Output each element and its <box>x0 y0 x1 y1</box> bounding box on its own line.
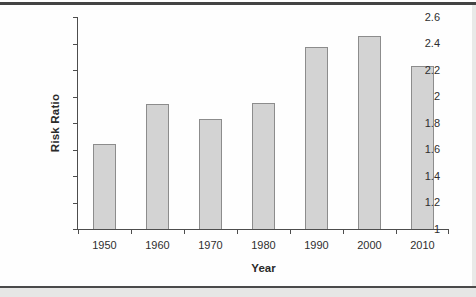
y-axis-tick <box>73 150 77 151</box>
x-tick-label-1980: 1980 <box>237 239 290 251</box>
y-tick-label-1.2: 1.2 <box>400 197 440 208</box>
x-tick-label-1990: 1990 <box>290 239 343 251</box>
y-tick-label-1: 1 <box>400 224 440 235</box>
top-rule <box>0 2 476 5</box>
x-tick-label-1970: 1970 <box>184 239 237 251</box>
y-tick-label-1.4: 1.4 <box>400 171 440 182</box>
x-axis-title: Year <box>78 262 449 274</box>
x-axis-tick <box>78 230 79 234</box>
x-tick-label-2000: 2000 <box>343 239 396 251</box>
x-tick-label-1960: 1960 <box>131 239 184 251</box>
y-axis-tick <box>73 70 77 71</box>
y-axis-tick <box>73 176 77 177</box>
bar-1950 <box>93 144 116 229</box>
y-tick-label-1.6: 1.6 <box>400 144 440 155</box>
y-tick-label-2.6: 2.6 <box>400 12 440 23</box>
bar-1970 <box>199 119 222 229</box>
x-tick-label-1950: 1950 <box>78 239 131 251</box>
bar-1990 <box>305 47 328 229</box>
y-axis-tick <box>73 97 77 98</box>
x-axis-tick <box>396 230 397 234</box>
y-axis-tick <box>73 203 77 204</box>
scanned-figure-page: Risk Ratio Year 2.62.42.221.81.61.41.21 … <box>0 0 476 289</box>
y-axis-tick <box>73 17 77 18</box>
y-tick-label-2.2: 2.2 <box>400 65 440 76</box>
x-axis-tick <box>343 230 344 234</box>
bar-1980 <box>252 103 275 229</box>
scan-right-margin <box>472 5 476 286</box>
risk-ratio-bar-chart: Risk Ratio Year 2.62.42.221.81.61.41.21 … <box>77 17 449 230</box>
y-tick-label-2.4: 2.4 <box>400 38 440 49</box>
scan-bottom-margin <box>0 288 476 297</box>
x-axis-tick <box>290 230 291 234</box>
y-axis-tick <box>73 229 77 230</box>
x-axis-tick <box>184 230 185 234</box>
y-axis-tick <box>73 44 77 45</box>
y-axis-tick <box>73 123 77 124</box>
bar-2000 <box>358 36 381 229</box>
y-tick-label-1.8: 1.8 <box>400 118 440 129</box>
x-axis-tick <box>131 230 132 234</box>
bar-1960 <box>146 104 169 229</box>
x-axis-tick <box>448 230 449 234</box>
x-tick-label-2010: 2010 <box>396 239 449 251</box>
x-axis-tick <box>237 230 238 234</box>
y-tick-label-2: 2 <box>400 91 440 102</box>
y-axis-title: Risk Ratio <box>49 94 61 152</box>
